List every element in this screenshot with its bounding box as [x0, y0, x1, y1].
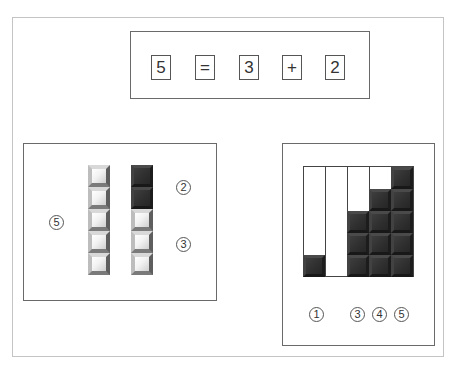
tile-dark: [347, 211, 369, 233]
tile-dark: [347, 233, 369, 255]
circled-label-4: 4: [372, 307, 387, 322]
tile-dark: [391, 167, 413, 189]
circled-label-3: 3: [350, 307, 365, 322]
staircase-column-2: [325, 166, 348, 277]
tile-light: [88, 231, 110, 253]
equation-symbol-5: 5: [151, 55, 171, 80]
equation-symbol-equals: =: [195, 55, 215, 80]
tile-light: [88, 209, 110, 231]
tile-light: [131, 253, 153, 275]
tile-dark: [391, 233, 413, 255]
tile-light: [131, 209, 153, 231]
tile-light: [131, 231, 153, 253]
tile-light: [88, 165, 110, 187]
tile-dark: [347, 255, 369, 277]
equation-symbol-3: 3: [239, 55, 259, 80]
circled-label-total: 5: [49, 215, 64, 230]
circled-label-5: 5: [394, 307, 409, 322]
tile-dark: [369, 189, 391, 211]
tile-light: [88, 253, 110, 275]
tile-dark: [391, 255, 413, 277]
tile-dark: [369, 211, 391, 233]
tile-dark: [131, 187, 153, 209]
tile-dark: [369, 233, 391, 255]
tile-dark: [131, 165, 153, 187]
circled-label-bottom-part: 3: [176, 237, 191, 252]
tile-dark: [391, 189, 413, 211]
tile-dark: [369, 255, 391, 277]
tile-dark: [391, 211, 413, 233]
equation-symbol-2: 2: [325, 55, 345, 80]
tile-light: [88, 187, 110, 209]
circled-label-top-part: 2: [176, 180, 191, 195]
equation-symbol-plus: +: [282, 55, 302, 80]
circled-label-1: 1: [309, 307, 324, 322]
tile-dark: [303, 255, 325, 277]
